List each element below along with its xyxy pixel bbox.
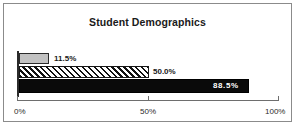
value-axis-line — [17, 100, 279, 101]
bar-label-series-3: 88.5% — [213, 81, 239, 90]
axis-tick-label-50: 50% — [140, 107, 156, 116]
axis-tick-label-100: 100% — [265, 107, 285, 116]
bar-label-series-1: 11.5% — [54, 54, 76, 63]
plot-area: 11.5% 50.0% 88.5% — [17, 51, 279, 97]
axis-tick-0 — [17, 96, 18, 101]
axis-tick-100 — [278, 96, 279, 101]
axis-tick-50 — [148, 96, 149, 101]
chart-title: Student Demographics — [4, 16, 291, 28]
bar-label-series-2: 50.0% — [153, 67, 176, 76]
chart-frame: Student Demographics 11.5% 50.0% 88.5% 0… — [3, 3, 292, 122]
axis-tick-label-0: 0% — [14, 107, 26, 116]
bar-series-2[interactable] — [19, 66, 149, 78]
bar-series-1[interactable] — [19, 53, 49, 64]
